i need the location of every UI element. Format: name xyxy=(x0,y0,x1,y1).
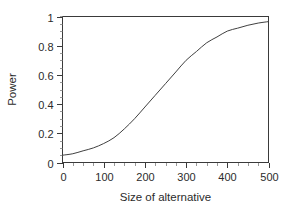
power-curve-chart: 0100200300400500 00.20.40.60.81 Size of … xyxy=(0,0,296,209)
x-axis-tick-label: 200 xyxy=(136,171,154,183)
y-axis-tick-label: 0 xyxy=(47,158,53,170)
x-axis-tick-label: 100 xyxy=(95,171,113,183)
chart-figure: 0100200300400500 00.20.40.60.81 Size of … xyxy=(0,0,296,209)
x-axis-title: Size of alternative xyxy=(120,191,211,203)
y-axis-tick-label: 0.6 xyxy=(38,70,53,82)
x-axis-tick-label: 500 xyxy=(260,171,278,183)
y-axis-tick-label: 1 xyxy=(47,12,53,24)
x-axis-tick-label: 300 xyxy=(177,171,195,183)
y-axis-tick-label: 0.8 xyxy=(38,41,53,53)
y-axis-tick-label: 0.2 xyxy=(38,128,53,140)
x-axis-tick-label: 0 xyxy=(60,171,66,183)
y-axis-tick-label: 0.4 xyxy=(38,99,53,111)
x-axis-tick-label: 400 xyxy=(218,171,236,183)
y-axis-title: Power xyxy=(6,73,18,106)
